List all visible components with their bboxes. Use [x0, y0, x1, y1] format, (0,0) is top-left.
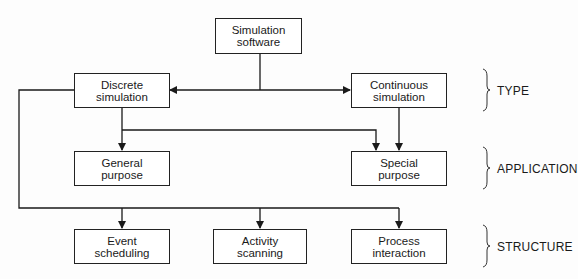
simulation-software-taxonomy-diagram: Simulationsoftware Discretesimulation Co…	[0, 0, 578, 279]
node-label: scheduling	[95, 247, 150, 259]
node-label: simulation	[96, 91, 148, 103]
node-special-purpose: Specialpurpose	[351, 151, 447, 186]
node-label: Discrete	[96, 79, 148, 91]
node-simulation-software: Simulationsoftware	[215, 18, 302, 54]
node-label: Simulation	[232, 24, 286, 36]
brace-icons	[483, 69, 490, 267]
node-label: purpose	[101, 169, 143, 181]
node-label: interaction	[372, 247, 425, 259]
node-label: General	[101, 157, 143, 169]
node-discrete-simulation: Discretesimulation	[74, 73, 170, 108]
node-label: Activity	[237, 235, 283, 247]
node-label: Process	[372, 235, 425, 247]
node-event-scheduling: Eventscheduling	[74, 229, 170, 264]
node-label: software	[232, 36, 286, 48]
level-label-structure: STRUCTURE	[497, 240, 573, 254]
node-label: Continuous	[370, 79, 428, 91]
node-process-interaction: Processinteraction	[351, 229, 447, 264]
node-activity-scanning: Activityscanning	[213, 229, 307, 264]
node-continuous-simulation: Continuoussimulation	[351, 73, 447, 108]
node-label: Event	[95, 235, 150, 247]
node-label: purpose	[378, 169, 420, 181]
node-label: Special	[378, 157, 420, 169]
level-label-type: TYPE	[497, 84, 529, 98]
node-label: scanning	[237, 247, 283, 259]
node-general-purpose: Generalpurpose	[74, 151, 170, 186]
level-label-application: APPLICATION	[497, 162, 578, 176]
node-label: simulation	[370, 91, 428, 103]
